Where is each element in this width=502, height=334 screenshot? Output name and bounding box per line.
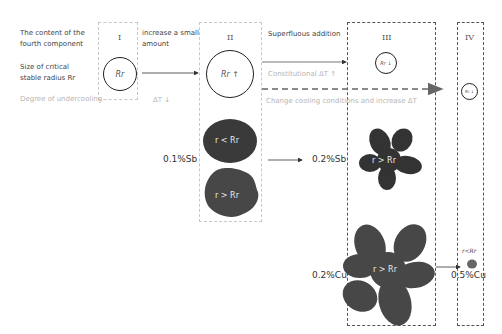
grain-cu-label: r > Rr (373, 265, 397, 274)
cu-low-label: 0.2%Cu (312, 270, 347, 280)
grain-irregular-label: r > Rr (215, 191, 239, 200)
grain-tiny-label: r<Rr (462, 245, 476, 256)
cu-high-label: 0.5%Cu (451, 270, 486, 280)
grain-round-label: r < Rr (215, 136, 239, 145)
sb-high-label: 0.2%Sb (312, 154, 346, 164)
connector-lines (0, 0, 502, 334)
grain-tiny (467, 260, 477, 269)
grain-sb-label: r > Rr (372, 156, 396, 165)
sb-low-label: 0.1%Sb (163, 154, 197, 164)
